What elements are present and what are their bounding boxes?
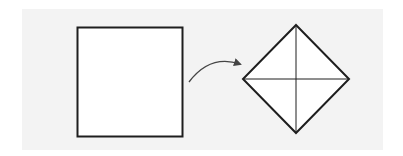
diagram-canvas [0, 0, 403, 156]
square-shape [78, 28, 183, 137]
transform-arrow [189, 61, 240, 82]
diamond-shape [243, 25, 349, 133]
